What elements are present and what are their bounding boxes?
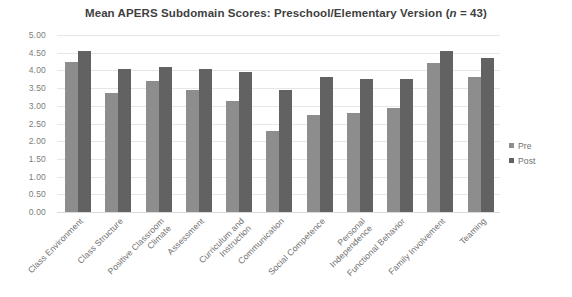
bar-pre	[105, 93, 118, 212]
y-axis-tick-label: 4.50	[29, 48, 46, 58]
bar-post	[320, 77, 333, 212]
bar-group	[385, 35, 425, 212]
chart-container: Mean APERS Subdomain Scores: Preschool/E…	[0, 0, 572, 297]
bar-pre	[347, 113, 360, 212]
bar-pre	[266, 131, 279, 212]
bar-post	[400, 79, 413, 212]
bar-pre	[186, 90, 199, 212]
bar-group	[305, 35, 345, 212]
y-axis-tick-label: 1.50	[29, 154, 46, 164]
bar-post	[159, 67, 172, 212]
bar-post	[279, 90, 292, 212]
legend-label: Pre	[518, 141, 532, 151]
bar-post	[78, 51, 91, 212]
y-axis-tick-label: 5.00	[29, 30, 46, 40]
bar-pre	[65, 62, 78, 212]
x-axis-labels: Class EnvironmentClass StructurePositive…	[57, 213, 500, 297]
bar-group	[184, 35, 224, 212]
x-axis-tick-label-line: Teaming	[457, 216, 488, 247]
chart-title-prefix: Mean APERS Subdomain Scores: Preschool/E…	[85, 7, 450, 19]
bar-pre	[427, 63, 440, 212]
y-axis-tick-label: 2.50	[29, 119, 46, 129]
bar-post	[118, 69, 131, 212]
x-axis-tick-label-line: Assessment	[165, 216, 206, 257]
bar-post	[199, 69, 212, 212]
bar-pre	[146, 81, 159, 212]
bar-group	[345, 35, 385, 212]
bar-post	[440, 51, 453, 212]
bar-pre	[387, 108, 400, 212]
bar-group	[103, 35, 143, 212]
bar-post	[481, 58, 494, 212]
legend-swatch-icon	[509, 158, 514, 163]
legend-item[interactable]: Pre	[509, 139, 564, 152]
y-axis-tick-label: 3.50	[29, 83, 46, 93]
bar-group	[264, 35, 304, 212]
chart-title: Mean APERS Subdomain Scores: Preschool/E…	[0, 7, 572, 19]
bar-group	[425, 35, 465, 212]
bar-post	[239, 72, 252, 212]
plot-area	[57, 35, 500, 212]
y-axis-tick-label: 2.00	[29, 136, 46, 146]
bar-pre	[468, 77, 481, 212]
bar-groups	[57, 35, 500, 212]
chart-legend: PrePost	[509, 139, 564, 169]
y-axis-tick-label: 0.00	[29, 207, 46, 217]
x-axis-tick-label: Class Environment	[0, 216, 85, 297]
y-axis-tick-label: 4.00	[29, 65, 46, 75]
y-axis-tick-label: 3.00	[29, 101, 46, 111]
legend-item[interactable]: Post	[509, 154, 564, 167]
y-axis: 5.004.504.003.503.002.502.001.501.000.50…	[0, 35, 52, 212]
y-axis-tick-label: 1.00	[29, 172, 46, 182]
bar-group	[63, 35, 103, 212]
bar-group	[466, 35, 506, 212]
legend-label: Post	[518, 156, 536, 166]
bar-group	[144, 35, 184, 212]
bar-pre	[307, 115, 320, 212]
bar-pre	[226, 101, 239, 213]
legend-swatch-icon	[509, 143, 514, 148]
y-axis-tick-label: 0.50	[29, 189, 46, 199]
bar-post	[360, 79, 373, 212]
bar-group	[224, 35, 264, 212]
chart-title-suffix: = 43)	[457, 7, 487, 19]
chart-title-italic-n: n	[450, 7, 457, 19]
